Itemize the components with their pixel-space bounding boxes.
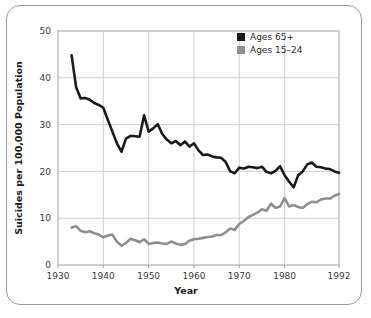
y-tick-label: 0 bbox=[45, 260, 51, 270]
y-tick-label: 20 bbox=[40, 167, 52, 177]
x-tick-label: 1930 bbox=[47, 271, 70, 281]
data-series bbox=[72, 55, 339, 245]
x-tick-label: 1980 bbox=[273, 271, 296, 281]
legend-label: Ages 65+ bbox=[250, 32, 294, 42]
line-chart: 1930194019501960197019801992 01020304050… bbox=[0, 0, 371, 318]
x-tick-label: 1992 bbox=[328, 271, 351, 281]
x-tick-label: 1970 bbox=[228, 271, 251, 281]
y-tick-label: 30 bbox=[40, 120, 52, 130]
x-axis-label: Year bbox=[173, 285, 198, 296]
y-tick-label: 50 bbox=[40, 26, 52, 36]
series-line-2 bbox=[72, 194, 339, 246]
legend-swatch bbox=[237, 46, 245, 54]
y-tick-label: 10 bbox=[40, 213, 52, 223]
chart-figure: 1930194019501960197019801992 01020304050… bbox=[0, 0, 371, 318]
chart-legend: Ages 65+Ages 15–24 bbox=[237, 32, 303, 55]
legend-label: Ages 15–24 bbox=[250, 45, 303, 55]
y-axis-label: Suicides per 100,000 Population bbox=[13, 61, 24, 235]
x-tick-label: 1940 bbox=[92, 271, 115, 281]
x-axis-ticks: 1930194019501960197019801992 bbox=[47, 265, 351, 281]
legend-swatch bbox=[237, 33, 245, 41]
y-axis-ticks: 01020304050 bbox=[40, 26, 52, 270]
y-tick-label: 40 bbox=[40, 73, 52, 83]
x-tick-label: 1950 bbox=[137, 271, 160, 281]
series-line-1 bbox=[72, 55, 339, 187]
x-tick-label: 1960 bbox=[183, 271, 206, 281]
